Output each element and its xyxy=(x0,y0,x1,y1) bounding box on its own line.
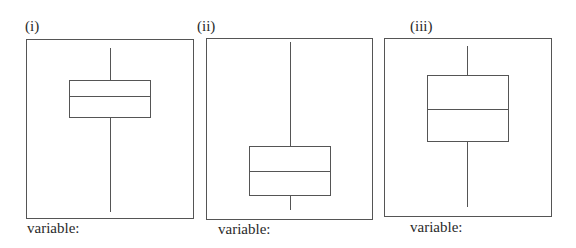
iqr-box xyxy=(69,80,151,118)
panel-title: (ii) xyxy=(197,18,215,35)
lower-whisker xyxy=(110,118,111,212)
upper-whisker xyxy=(467,46,468,75)
iqr-box xyxy=(249,146,331,196)
panel-title: (i) xyxy=(25,18,39,35)
variable-label: variable: xyxy=(410,219,462,236)
upper-whisker xyxy=(110,48,111,80)
panel-title: (iii) xyxy=(410,18,433,35)
lower-whisker xyxy=(290,196,291,210)
variable-label: variable: xyxy=(218,221,270,238)
variable-label: variable: xyxy=(27,220,79,237)
lower-whisker xyxy=(467,142,468,207)
median-line xyxy=(70,96,150,97)
upper-whisker xyxy=(290,42,291,146)
median-line xyxy=(250,171,330,172)
iqr-box xyxy=(427,75,509,142)
median-line xyxy=(428,109,508,110)
